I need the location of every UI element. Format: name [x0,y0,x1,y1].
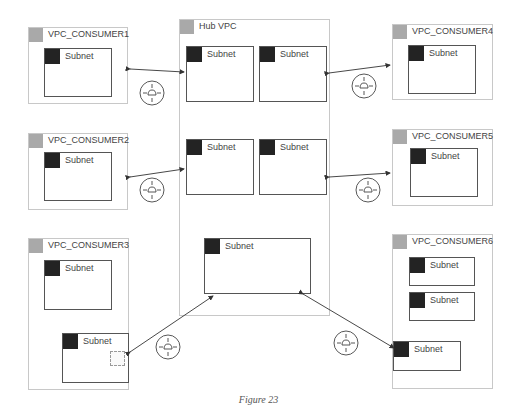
vpc-consumer6[interactable]: VPC_CONSUMER6 Subnet Subnet Subnet [392,234,493,389]
subnet[interactable]: Subnet [409,292,475,321]
router-icon [334,331,358,355]
hub-subnet-4[interactable]: Subnet [259,139,327,195]
subnet[interactable]: Subnet [409,257,475,286]
subnet-cloud-lock-icon [411,149,426,164]
subnet-label: Subnet [431,151,460,161]
vpc-label: VPC_CONSUMER2 [48,135,129,145]
hub-subnet-3[interactable]: Subnet [186,139,254,195]
subnet-cloud-lock-icon [45,261,60,276]
subnet[interactable]: Subnet [393,341,461,371]
subnet-label: Subnet [414,344,443,354]
vpc-cloud-icon [393,130,407,144]
vpc-consumer1[interactable]: VPC_CONSUMER1 Subnet [28,27,128,104]
subnet-cloud-lock-icon [409,46,424,61]
subnet-label: Subnet [429,48,458,58]
subnet-cloud-lock-icon [410,258,425,273]
subnet[interactable]: Subnet [44,152,112,201]
vpc-cloud-icon [29,28,43,42]
subnet-cloud-lock-icon [63,334,78,349]
vpc-label: VPC_CONSUMER5 [412,131,493,141]
vpc-cloud-icon [180,20,194,34]
subnet-cloud-lock-icon [45,153,60,168]
subnet-cloud-lock-icon [260,47,275,62]
subnet-with-endpoint[interactable]: Subnet [62,333,129,383]
hub-vpc[interactable]: Hub VPC Subnet Subnet Subnet Subnet Subn… [179,19,330,316]
router-icon [156,335,180,359]
connector-hub-c5 [329,173,390,177]
subnet-label: Subnet [65,155,94,165]
subnet-label: Subnet [280,142,309,152]
vpc-label: Hub VPC [199,21,237,31]
vpc-label: VPC_CONSUMER1 [48,29,129,39]
hub-subnet-2[interactable]: Subnet [259,46,327,102]
vpc-cloud-icon [29,239,43,253]
subnet-label: Subnet [207,142,236,152]
router-icon [140,178,164,202]
subnet-label: Subnet [430,260,459,270]
connector-c2-hub [130,169,184,177]
subnet[interactable]: Subnet [44,48,112,97]
subnet-cloud-lock-icon [187,47,202,62]
hub-subnet-1[interactable]: Subnet [186,46,254,102]
subnet-label: Subnet [65,51,94,61]
subnet-cloud-lock-icon [410,293,425,308]
connector-c1-hub [130,69,184,72]
subnet[interactable]: Subnet [408,45,476,94]
subnet-cloud-lock-icon [205,239,220,254]
vpc-consumer2[interactable]: VPC_CONSUMER2 Subnet [28,133,128,210]
subnet-label: Subnet [225,241,254,251]
subnet-cloud-lock-icon [187,140,202,155]
subnet[interactable]: Subnet [44,260,112,310]
vpc-consumer5[interactable]: VPC_CONSUMER5 Subnet [392,129,493,206]
vpc-cloud-icon [393,25,407,39]
router-icon [356,178,380,202]
router-icon [140,81,164,105]
subnet[interactable]: Subnet [410,148,478,197]
subnet-label: Subnet [280,49,309,59]
subnet-label: Subnet [83,336,112,346]
vpc-cloud-icon [393,235,407,249]
subnet-cloud-lock-icon [394,342,409,357]
hub-subnet-5[interactable]: Subnet [204,238,311,294]
vpc-label: VPC_CONSUMER6 [412,236,493,246]
subnet-label: Subnet [65,263,94,273]
vpc-consumer4[interactable]: VPC_CONSUMER4 Subnet [392,24,493,100]
vpc-label: VPC_CONSUMER4 [412,26,493,36]
subnet-label: Subnet [430,295,459,305]
connector-hub-c4 [329,65,390,73]
vpc-cloud-icon [29,134,43,148]
subnet-cloud-lock-icon [260,140,275,155]
subnet-label: Subnet [207,49,236,59]
figure-caption: Figure 23 [0,394,517,405]
vpc-consumer3[interactable]: VPC_CONSUMER3 Subnet Subnet [28,238,129,390]
subnet-cloud-lock-icon [45,49,60,64]
chip-icon[interactable] [110,351,125,366]
vpc-label: VPC_CONSUMER3 [48,240,129,250]
router-icon [352,74,376,98]
